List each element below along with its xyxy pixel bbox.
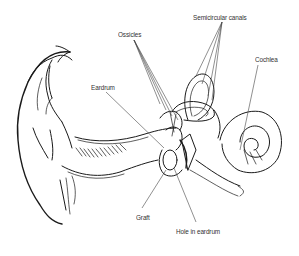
label-eardrum: Eardrum [91,83,115,92]
semicircular-canals [172,74,220,138]
label-graft: Graft [136,213,150,222]
label-semicircular-canals: Semicircular canals [193,13,247,22]
ear-anatomy-diagram: Ossicles Semicircular canals Cochlea Ear… [0,0,299,256]
outer-ear [17,46,75,224]
label-hole-in-eardrum: Hole in eardrum [176,227,220,236]
ear-canal [62,128,176,178]
label-ossicles: Ossicles [118,30,141,39]
cochlea [190,111,281,196]
label-cochlea: Cochlea [255,55,278,64]
